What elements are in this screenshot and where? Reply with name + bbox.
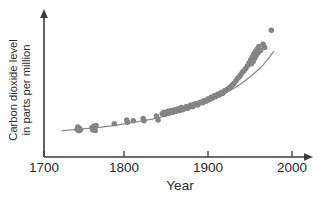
y-axis-arrow-icon — [40, 9, 48, 18]
data-point — [93, 128, 99, 134]
data-point — [93, 123, 99, 128]
x-tick-label-1700: 1700 — [29, 160, 59, 175]
chart-container: Carbon dioxide level in parts per millio… — [0, 0, 330, 204]
data-point — [112, 121, 118, 127]
x-tick-label-1900: 1900 — [193, 160, 223, 175]
x-tick-label-2000: 2000 — [277, 160, 307, 175]
x-tick-label-1800: 1800 — [109, 160, 139, 175]
y-axis-title-line1: Carbon dioxide level — [7, 39, 19, 140]
x-axis-tick-labels: 1700 1800 1900 2000 — [29, 160, 307, 175]
x-axis-ticks — [44, 151, 292, 157]
scatter-points-layer — [74, 27, 274, 133]
y-axis-title-line2: in parts per million — [20, 45, 32, 136]
trend-line — [62, 51, 274, 130]
data-point — [131, 118, 137, 124]
data-point — [269, 27, 275, 32]
data-point — [262, 45, 268, 51]
y-axis-title: Carbon dioxide level in parts per millio… — [7, 39, 32, 140]
x-axis-title: Year — [166, 178, 194, 193]
data-point — [141, 118, 147, 124]
data-point — [78, 127, 84, 133]
co2-scatter-chart: Carbon dioxide level in parts per millio… — [0, 0, 330, 204]
data-point — [155, 117, 161, 123]
data-point — [125, 120, 130, 126]
